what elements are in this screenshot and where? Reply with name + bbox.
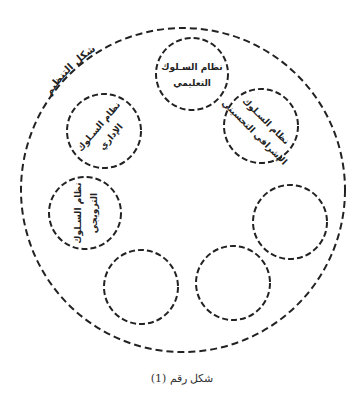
- organization-diagram: شكل التنظيم نظام السـلوكالتعليمينظام الس…: [0, 0, 364, 403]
- system-circle-promotional: نظام السـلوكالترويجي: [49, 177, 121, 249]
- system-label-line: الترويجي: [89, 193, 100, 233]
- outer-organization-circle: [21, 28, 345, 352]
- system-circle-teaching: نظام السـلوكالتعليمي: [156, 38, 228, 110]
- system-circle-empty-bottom-left: [104, 250, 178, 324]
- system-circle-administrative: نظام السـلوكالإداري: [67, 94, 141, 168]
- system-circle-supervisory: نظام السـلوكالإشرافي التحسيني: [219, 87, 300, 168]
- system-label-line: نظام السـلوك: [161, 62, 223, 73]
- system-circle-empty-bottom-right: [196, 246, 270, 320]
- system-circle-empty-right: [253, 185, 327, 259]
- figure-caption: شكل رقم (1): [0, 372, 364, 385]
- outer-label: شكل التنظيم: [43, 43, 97, 97]
- system-label-line: التعليمي: [173, 78, 211, 88]
- system-label-line: نظام السـلوك: [73, 182, 84, 244]
